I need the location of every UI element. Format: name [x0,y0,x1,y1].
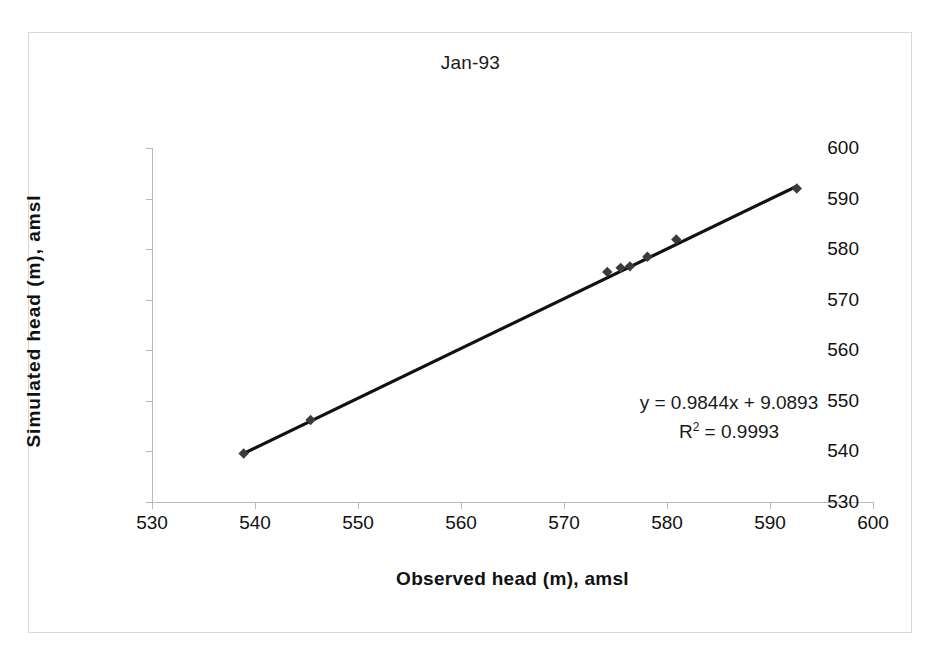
r-squared-value: R2 = 0.9993 [600,417,858,446]
r-squared-number: = 0.9993 [699,421,779,442]
x-tick-label: 540 [239,512,271,534]
x-tick-label: 570 [548,512,580,534]
chart-container: Jan-93 Simulated head (m), amsl Observed… [0,0,941,664]
x-tick-label: 580 [651,512,683,534]
x-tick-mark [358,503,359,509]
x-tick-label: 560 [445,512,477,534]
data-point-marker [238,448,248,458]
plot-area: 530540550560570580590600 530540550560570… [152,148,873,502]
chart-title: Jan-93 [0,52,941,74]
x-tick-mark [873,503,874,509]
x-tick-mark [255,503,256,509]
r-squared-prefix: R [679,421,693,442]
trendline-annotation: y = 0.9844x + 9.0893 R2 = 0.9993 [600,388,858,447]
x-tick-label: 550 [342,512,374,534]
data-series-layer [152,148,873,503]
x-tick-mark [461,503,462,509]
x-axis-title: Observed head (m), amsl [152,568,873,590]
data-point-marker [792,183,802,193]
x-tick-label: 590 [754,512,786,534]
x-tick-mark [770,503,771,509]
x-tick-mark [564,503,565,509]
trendline-equation: y = 0.9844x + 9.0893 [600,388,858,417]
x-tick-label: 600 [857,512,889,534]
x-tick-mark [667,503,668,509]
x-tick-label: 530 [136,512,168,534]
y-axis-title: Simulated head (m), amsl [23,21,45,621]
x-tick-mark [152,503,153,509]
